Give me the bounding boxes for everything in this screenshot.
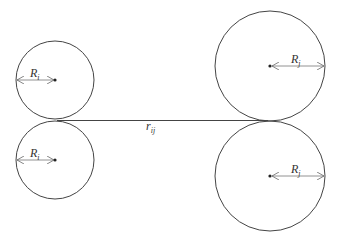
radius-label: Rj [290, 162, 301, 178]
circle-i-bottom: Ri [16, 121, 94, 199]
diagram-canvas: rij Ri Ri Rj Rj [0, 0, 339, 244]
center-dot [268, 174, 271, 177]
center-dot [268, 64, 271, 67]
circle-i-top: Ri [16, 41, 94, 119]
radius-label: Ri [29, 66, 40, 82]
circle-j-top: Rj [215, 11, 325, 121]
distance-label: rij [146, 119, 156, 135]
circle-j-bottom: Rj [215, 121, 325, 231]
radius-label: Ri [29, 146, 40, 162]
radius-label: Rj [290, 52, 301, 68]
